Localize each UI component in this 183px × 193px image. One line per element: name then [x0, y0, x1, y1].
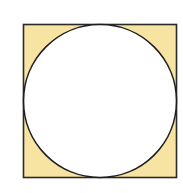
inscribed-circle — [24, 25, 177, 178]
inscribed-circle-diagram — [0, 0, 183, 193]
